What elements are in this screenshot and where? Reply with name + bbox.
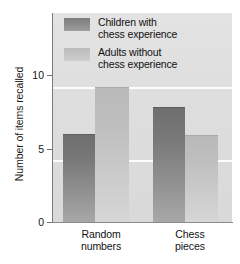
gridline-10 bbox=[53, 87, 232, 89]
y-axis-title: Number of items recalled bbox=[13, 39, 25, 209]
legend-label-children-line1: Children with bbox=[98, 17, 177, 29]
x-label-chess-pieces-line2: pieces bbox=[155, 240, 225, 252]
y-tick-5 bbox=[47, 149, 52, 150]
y-tick-10 bbox=[47, 75, 52, 76]
legend-swatch-children bbox=[64, 18, 90, 31]
y-tick-label-0: 0 bbox=[38, 216, 44, 228]
x-label-random-numbers: Random numbers bbox=[63, 228, 139, 252]
legend-label-children: Children with chess experience bbox=[98, 17, 177, 40]
bar-children-chess-pieces bbox=[153, 107, 185, 222]
legend-item-children: Children with chess experience bbox=[64, 17, 229, 40]
y-tick-label-10: 10 bbox=[32, 69, 44, 81]
legend-label-adults-line2: chess experience bbox=[98, 59, 177, 71]
x-label-chess-pieces-line1: Chess bbox=[155, 228, 225, 240]
bar-chart: Number of items recalled 10 5 0 Children… bbox=[0, 0, 240, 264]
legend-item-adults: Adults without chess experience bbox=[64, 47, 229, 70]
x-axis-line bbox=[52, 222, 233, 223]
bar-adults-chess-pieces bbox=[185, 135, 218, 222]
bar-adults-random-numbers bbox=[95, 87, 129, 222]
x-label-random-numbers-line1: Random bbox=[63, 228, 139, 240]
legend-label-adults: Adults without chess experience bbox=[98, 47, 177, 70]
bar-children-random-numbers bbox=[63, 134, 95, 222]
y-tick-label-5: 5 bbox=[38, 143, 44, 155]
x-label-random-numbers-line2: numbers bbox=[63, 240, 139, 252]
legend-swatch-adults bbox=[64, 48, 90, 61]
y-tick-0 bbox=[47, 222, 52, 223]
legend-label-children-line2: chess experience bbox=[98, 29, 177, 41]
x-label-chess-pieces: Chess pieces bbox=[155, 228, 225, 252]
y-axis-line bbox=[52, 13, 53, 223]
legend: Children with chess experience Adults wi… bbox=[64, 17, 229, 77]
legend-label-adults-line1: Adults without bbox=[98, 47, 177, 59]
